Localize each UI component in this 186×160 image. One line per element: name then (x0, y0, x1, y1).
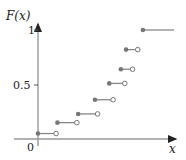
open-dot (95, 112, 100, 117)
open-dot (130, 67, 135, 72)
closed-dot (36, 131, 41, 136)
cdf-chart: F(x) 1 0.5 0 x (0, 0, 186, 160)
closed-dot (141, 28, 146, 33)
closed-dot (107, 81, 112, 86)
closed-dot (76, 112, 81, 117)
closed-dot (55, 120, 60, 125)
closed-dot (93, 97, 98, 102)
open-dot (122, 81, 127, 86)
open-dot (135, 47, 140, 52)
step-series (36, 28, 174, 136)
closed-dot (119, 67, 124, 72)
open-dot (111, 97, 116, 102)
open-dot (54, 131, 59, 136)
closed-dot (124, 47, 129, 52)
y-axis-label: F(x) (5, 9, 31, 23)
origin-label: 0 (27, 141, 34, 154)
open-dot (75, 120, 80, 125)
x-axis-label: x (169, 142, 176, 156)
y-tick-label-1: 1 (28, 24, 35, 37)
y-tick-label-half: 0.5 (13, 79, 31, 92)
